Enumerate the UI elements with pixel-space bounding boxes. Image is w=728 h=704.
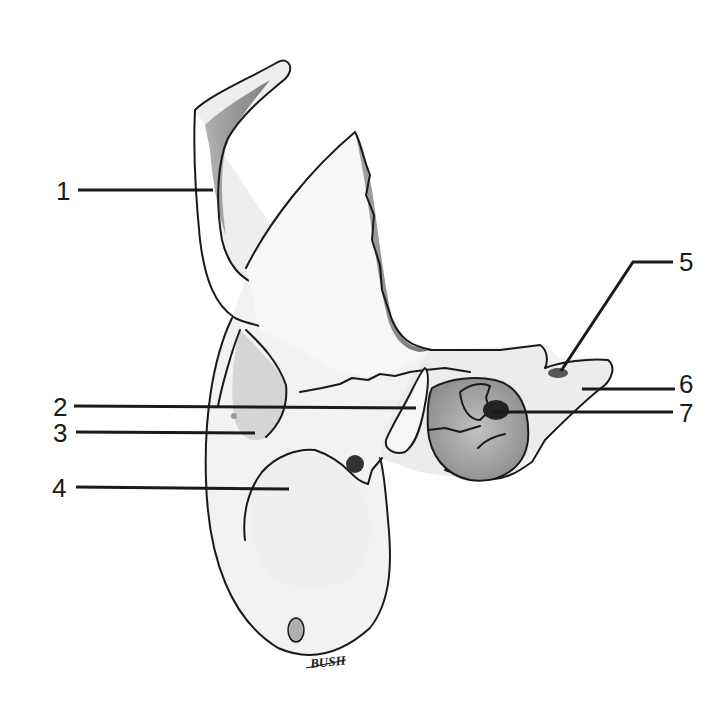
label-5: 5: [679, 247, 693, 277]
leader-line-5: [561, 262, 673, 371]
label-4: 4: [52, 473, 66, 503]
label-1: 1: [56, 176, 70, 206]
middle-ear-cavity: [428, 378, 529, 481]
bone-diagram: 1 2 3 4 5 6 7 BUSH: [0, 0, 728, 704]
label-7: 7: [679, 398, 693, 428]
leader-line-4: [76, 487, 289, 489]
leader-line-2: [74, 406, 416, 408]
leader-line-3: [76, 432, 255, 433]
bottom-foramen: [288, 618, 304, 642]
label-6: 6: [679, 369, 693, 399]
artist-signature: BUSH: [308, 652, 347, 671]
label-3: 3: [53, 418, 67, 448]
